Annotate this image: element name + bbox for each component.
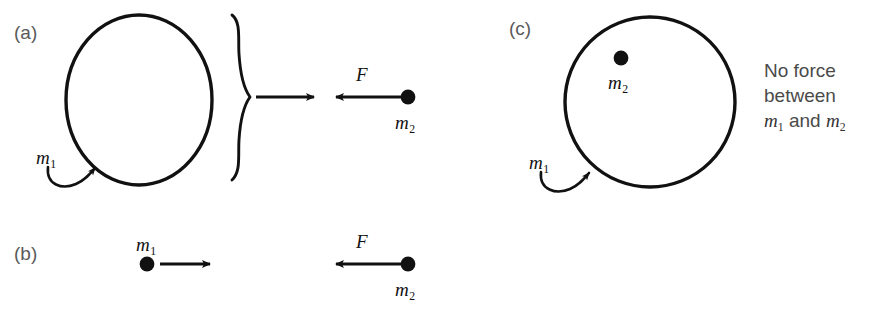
- panel-c-graphics: [541, 17, 735, 191]
- note-line-1: No force: [764, 58, 846, 83]
- panel-a-curly-brace: [232, 15, 250, 180]
- panel-b-mass-m2-label: m2: [395, 279, 415, 304]
- panel-c-mass-m2-dot: [614, 51, 629, 66]
- panel-a-force-label: F: [356, 64, 368, 86]
- panel-c-no-force-note: No force between m1 and m2: [764, 58, 846, 140]
- note-line-2: between: [764, 83, 846, 108]
- panel-c-label: (c): [509, 18, 531, 40]
- panel-b-force-label: F: [356, 231, 368, 253]
- panel-b-graphics: [140, 257, 416, 272]
- panel-c-mass-m2-label: m2: [608, 72, 628, 97]
- panel-b-mass-m2-dot: [401, 257, 416, 272]
- panel-a-label: (a): [14, 22, 37, 44]
- figure-vector-layer: [0, 0, 875, 319]
- panel-c-shell-circle: [565, 17, 735, 187]
- panel-a-mass-m2-label: m2: [395, 112, 415, 137]
- physics-figure-shell-theorem: (a) m1 F m2 (b) m1 F m2 (c) m1 m2 No for…: [0, 0, 875, 319]
- panel-c-mass-m1-label: m1: [529, 152, 549, 177]
- panel-a-graphics: [48, 15, 416, 186]
- panel-a-mass-m1-label: m1: [36, 147, 56, 172]
- panel-b-mass-m1-label: m1: [136, 234, 156, 259]
- note-line-3: m1 and m2: [764, 108, 846, 140]
- panel-b-label: (b): [14, 243, 37, 265]
- panel-a-shell-circle: [66, 15, 212, 185]
- panel-a-mass-m2-dot: [401, 90, 416, 105]
